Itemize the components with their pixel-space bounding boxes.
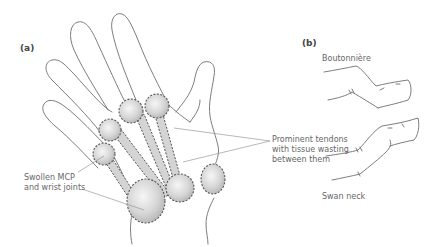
boutonniere-finger	[324, 66, 411, 108]
rheumatoid-hand-diagram: (a)	[0, 0, 440, 247]
index-finger-outline	[112, 14, 168, 104]
annotation-joints: Swollen MCP and wrist joints	[24, 173, 85, 192]
annotation-joints-line1: Swollen MCP	[24, 173, 75, 182]
panel-b-label: (b)	[302, 38, 317, 48]
annotation-joints-line2: and wrist joints	[24, 183, 85, 192]
boutonniere-label: Boutonnière	[322, 53, 371, 63]
boutonniere-bottom-outline	[328, 92, 378, 108]
thumb-outline	[176, 62, 219, 168]
swan-neck-crease	[356, 124, 404, 176]
mcp-joint-index	[145, 94, 169, 118]
wrist-joint-right	[201, 164, 225, 194]
mcp-joint-middle	[119, 99, 143, 123]
panel-a-label: (a)	[20, 43, 34, 53]
palm-edge-outline	[168, 104, 190, 122]
leader-tendons-lower	[183, 141, 270, 162]
boutonniere-crease	[349, 84, 400, 94]
annotation-tendons-line2: with tissue wasting	[272, 145, 349, 154]
annotation-tendons-line1: Prominent tendons	[272, 135, 348, 144]
mcp-joint-little	[93, 143, 115, 165]
leader-tendons-upper	[174, 128, 270, 141]
swan-neck-label: Swan neck	[322, 192, 366, 201]
annotation-tendons-line3: between them	[272, 155, 330, 164]
ring-finger-outline	[46, 60, 112, 132]
wrist-joint-center	[166, 174, 194, 202]
mcp-joint-ring	[99, 119, 121, 141]
middle-finger-outline	[71, 22, 124, 110]
thumb-crease	[190, 100, 200, 122]
wrist-right-outline	[206, 198, 214, 244]
annotation-tendons: Prominent tendons with tissue wasting be…	[272, 135, 349, 164]
wrist-left-outline	[131, 214, 133, 244]
wrist-joint-large	[127, 179, 165, 223]
